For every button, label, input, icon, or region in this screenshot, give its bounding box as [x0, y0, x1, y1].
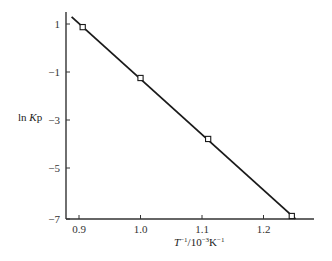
x-axis-label: T−1/10−3K−1	[174, 236, 225, 248]
data-point-marker	[138, 75, 143, 80]
y-tick-label: −5	[48, 162, 60, 174]
data-point-marker	[206, 136, 211, 141]
data-point-marker	[289, 213, 294, 218]
x-tick-label: 1.1	[195, 223, 209, 235]
y-ticks: 1−1−3−5−7	[48, 18, 70, 225]
chart: 0.91.01.11.2 1−1−3−5−7 ln Kp T−1/10−3K−1	[0, 0, 332, 261]
y-tick-label: −1	[48, 66, 60, 78]
x-ticks: 0.91.01.11.2	[72, 215, 270, 235]
x-tick-label: 0.9	[72, 223, 86, 235]
x-tick-label: 1.2	[257, 223, 271, 235]
y-axis-label: ln Kp	[18, 111, 43, 123]
fit-line	[72, 17, 296, 219]
x-tick-label: 1.0	[134, 223, 148, 235]
y-tick-label: −3	[48, 114, 60, 126]
plot-area	[72, 17, 296, 219]
axes	[66, 12, 314, 219]
y-tick-label: 1	[55, 18, 61, 30]
data-point-marker	[80, 25, 85, 30]
y-tick-label: −7	[48, 213, 60, 225]
